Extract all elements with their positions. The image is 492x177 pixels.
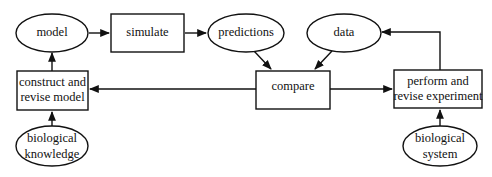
node-biological-system: biological system (403, 126, 477, 166)
node-construct: construct and revise model (17, 71, 88, 110)
node-compare-label: compare (271, 79, 314, 93)
node-simulate-label: simulate (126, 25, 169, 39)
node-biological-system-label-line2: system (423, 147, 458, 161)
node-compare: compare (256, 71, 330, 109)
node-biological-knowledge-label-line2: knowledge (25, 147, 80, 161)
node-construct-label-line2: revise model (20, 90, 85, 104)
node-model: model (16, 14, 88, 52)
node-perform-label-line2: revise experiment (393, 89, 483, 103)
node-perform-label-line1: perform and (407, 74, 469, 88)
node-predictions-label: predictions (218, 25, 274, 39)
node-data-label: data (334, 25, 355, 39)
node-data: data (307, 14, 381, 52)
edge-perform-to-data (382, 32, 440, 70)
node-biological-knowledge-label-line1: biological (27, 131, 78, 145)
node-predictions: predictions (208, 14, 284, 52)
node-perform: perform and revise experiment (393, 70, 483, 108)
node-biological-knowledge: biological knowledge (16, 126, 88, 166)
node-model-label: model (36, 25, 68, 39)
modeling-cycle-diagram: model simulate predictions data construc… (0, 0, 492, 177)
edge-data-to-compare (315, 51, 332, 69)
edge-predictions-to-compare (254, 51, 271, 69)
node-construct-label-line1: construct and (19, 75, 87, 89)
node-simulate: simulate (111, 14, 184, 52)
node-biological-system-label-line1: biological (415, 131, 466, 145)
